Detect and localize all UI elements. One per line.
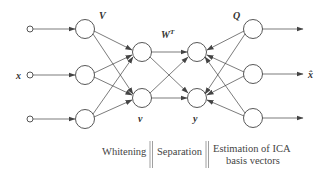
q-layer (244, 20, 263, 128)
stage-estimation-label-1: Estimation of ICA (213, 143, 291, 154)
stage-separation-label: Separation (157, 146, 203, 157)
separation-matrix-label: WT (161, 28, 175, 40)
v-node-2 (133, 89, 152, 108)
output-label: x̂ (307, 69, 313, 80)
y-layer (188, 43, 207, 108)
v-layer (133, 43, 152, 108)
q-node-2 (244, 65, 263, 84)
basis-matrix-label: Q (233, 10, 240, 21)
stage-whitening-label: Whitening (102, 146, 147, 157)
input-node-3 (27, 116, 33, 122)
q-node-3 (244, 109, 263, 128)
whitening-node-1 (76, 20, 95, 39)
whitening-matrix-label: V (99, 10, 107, 21)
stage-estimation-label-2: basis vectors (226, 155, 280, 166)
input-label: x (15, 70, 21, 81)
ica-network-diagram: x V WT v y Q x̂ Whitening Separation Est… (0, 0, 328, 179)
edges-Q (205, 31, 245, 116)
q-node-1 (244, 20, 263, 39)
output-arrows (263, 29, 304, 118)
whitening-node-2 (76, 66, 95, 85)
edges-V (93, 31, 133, 117)
whitening-layer (76, 20, 95, 129)
y-node-2 (188, 89, 207, 108)
whitening-node-3 (76, 110, 95, 129)
input-node-1 (27, 26, 33, 32)
whitened-signal-label: v (138, 113, 143, 124)
input-layer (27, 26, 75, 122)
separated-signal-label: y (192, 113, 198, 124)
edges-WT (150, 52, 188, 98)
y-node-1 (188, 43, 207, 62)
v-node-1 (133, 43, 152, 62)
input-node-2 (27, 72, 33, 78)
